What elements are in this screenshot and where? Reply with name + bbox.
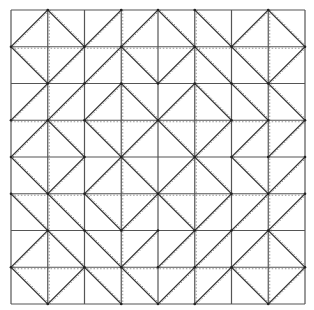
diagonal-forward bbox=[158, 47, 195, 84]
vertex-node bbox=[10, 156, 13, 159]
dotted-diagonal-guide bbox=[123, 47, 158, 82]
vertex-node bbox=[120, 82, 123, 85]
vertex-node bbox=[10, 266, 13, 269]
dotted-diagonal-guide bbox=[160, 86, 195, 121]
vertex-node bbox=[304, 156, 307, 159]
diagonal-forward bbox=[11, 10, 48, 47]
diagonal-backward bbox=[121, 84, 158, 121]
grid-diagram bbox=[0, 0, 314, 310]
diagonal-backward bbox=[158, 120, 195, 157]
vertex-node bbox=[230, 229, 233, 232]
vertex-node bbox=[157, 229, 160, 232]
diagonal-backward bbox=[85, 194, 122, 231]
dotted-diagonal-guide bbox=[197, 10, 232, 45]
dotted-diagonal-guide bbox=[87, 120, 122, 155]
vertex-node bbox=[157, 303, 160, 306]
diagonal-backward bbox=[195, 47, 232, 84]
diagonal-forward bbox=[85, 84, 122, 121]
diagonal-backward bbox=[11, 267, 48, 304]
vertex-node bbox=[10, 45, 13, 48]
diagonal-forward bbox=[121, 10, 158, 47]
dotted-diagonal-guide bbox=[270, 269, 305, 304]
diagonal-forward bbox=[268, 120, 305, 157]
dotted-diagonal-guide bbox=[160, 194, 195, 229]
dotted-diagonal-guide bbox=[160, 10, 195, 45]
diagonal-backward bbox=[85, 231, 122, 268]
vertex-node bbox=[193, 9, 196, 12]
dotted-diagonal-guide bbox=[270, 159, 305, 194]
vertex-node bbox=[193, 82, 196, 85]
dotted-diagonal-guide bbox=[197, 157, 232, 192]
dotted-diagonal-guide bbox=[234, 47, 269, 82]
diagonal-forward bbox=[121, 194, 158, 231]
diagonal-forward bbox=[268, 157, 305, 194]
diagonal-backward bbox=[11, 47, 48, 84]
dotted-diagonal-guide bbox=[13, 86, 48, 121]
dotted-diagonal-guide bbox=[50, 86, 85, 121]
dotted-diagonal-guide bbox=[123, 196, 158, 231]
diagonal-forward bbox=[195, 231, 232, 268]
vertex-node bbox=[10, 192, 13, 195]
dotted-diagonal-guide bbox=[123, 233, 158, 268]
dotted-diagonal-guide bbox=[234, 84, 269, 119]
diagonal-forward bbox=[48, 47, 85, 84]
diagonal-forward bbox=[11, 84, 48, 121]
diagonal-backward bbox=[232, 157, 269, 194]
diagonal-backward bbox=[195, 84, 232, 121]
dotted-diagonal-guide bbox=[87, 86, 122, 121]
diagonal-backward bbox=[48, 10, 85, 47]
vertex-node bbox=[120, 156, 123, 159]
dotted-diagonal-guide bbox=[123, 157, 158, 192]
diagonal-backward bbox=[11, 157, 48, 194]
diagonal-backward bbox=[121, 267, 158, 304]
diagonal-backward bbox=[121, 47, 158, 84]
dotted-diagonal-guide bbox=[13, 12, 48, 47]
vertex-node bbox=[46, 119, 49, 122]
dotted-diagonal-guide bbox=[197, 233, 232, 268]
diagonal-forward bbox=[232, 231, 269, 268]
dotted-diagonal-guide bbox=[270, 49, 305, 84]
vertex-node bbox=[157, 82, 160, 85]
dotted-diagonal-guide bbox=[50, 10, 85, 45]
vertex-node bbox=[267, 9, 270, 12]
dotted-diagonal-guide bbox=[234, 157, 269, 192]
vertex-node bbox=[230, 266, 233, 269]
dotted-diagonal-guide bbox=[197, 47, 232, 82]
diagonal-forward bbox=[158, 157, 195, 194]
dotted-diagonal-guide bbox=[234, 233, 269, 268]
dotted-diagonal-guide bbox=[13, 233, 48, 268]
vertex-node bbox=[83, 45, 86, 48]
vertex-node bbox=[120, 9, 123, 12]
dotted-diagonal-guide bbox=[50, 49, 85, 84]
dotted-diagonal-guide bbox=[160, 269, 195, 304]
vertex-node bbox=[193, 45, 196, 48]
vertex-node bbox=[230, 82, 233, 85]
dotted-diagonal-guide bbox=[197, 196, 232, 231]
dotted-diagonal-guide bbox=[87, 194, 122, 229]
diagonal-backward bbox=[85, 120, 122, 157]
dotted-diagonal-guide bbox=[13, 122, 48, 157]
dotted-diagonal-guide bbox=[234, 267, 269, 302]
dotted-diagonal-guide bbox=[270, 196, 305, 231]
vertex-node bbox=[10, 119, 13, 122]
dotted-diagonal-guide bbox=[87, 267, 122, 302]
dotted-diagonal-guide bbox=[234, 122, 269, 157]
vertex-node bbox=[267, 192, 270, 195]
dotted-diagonal-guide bbox=[13, 267, 48, 302]
vertex-node bbox=[83, 266, 86, 269]
vertex-node bbox=[83, 229, 86, 232]
diagonal-forward bbox=[232, 10, 269, 47]
diagonal-forward bbox=[85, 10, 122, 47]
vertex-node bbox=[230, 119, 233, 122]
dotted-diagonal-guide bbox=[160, 159, 195, 194]
vertex-node bbox=[46, 303, 49, 306]
diagonal-backward bbox=[195, 157, 232, 194]
diagonal-forward bbox=[232, 194, 269, 231]
diagonal-forward bbox=[195, 267, 232, 304]
vertex-node bbox=[193, 266, 196, 269]
vertex-node bbox=[157, 192, 160, 195]
dotted-diagonal-guide bbox=[270, 10, 305, 45]
vertex-node bbox=[304, 45, 307, 48]
diagonal-forward bbox=[11, 120, 48, 157]
dotted-diagonal-guide bbox=[197, 269, 232, 304]
